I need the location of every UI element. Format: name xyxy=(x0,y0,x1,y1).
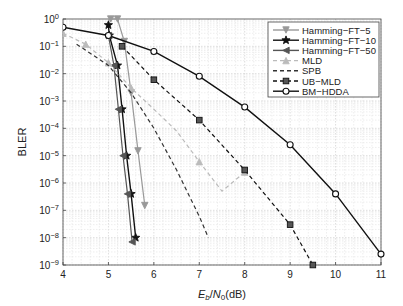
x-tick-label: 11 xyxy=(376,269,387,280)
x-axis-label: Eb/N0(dB) xyxy=(198,288,246,302)
y-tick-label: 10−9 xyxy=(39,258,59,271)
x-tick-label: 4 xyxy=(60,269,66,280)
x-tick-label: 6 xyxy=(151,269,157,280)
y-tick-label: 10−4 xyxy=(39,121,59,134)
circle-marker xyxy=(151,48,157,54)
y-tick-label: 10−3 xyxy=(39,94,59,107)
square-marker xyxy=(287,222,293,228)
circle-marker xyxy=(242,104,248,110)
circle-marker xyxy=(333,191,339,197)
y-tick-label: 10−7 xyxy=(39,203,59,216)
square-marker xyxy=(196,117,202,123)
circle-marker xyxy=(196,73,202,79)
x-tick-label: 10 xyxy=(330,269,342,280)
circle-marker xyxy=(105,32,111,38)
x-tick-label: 5 xyxy=(106,269,112,280)
legend: Hamming−FT−5Hamming−FT−10Hamming−FT−50ML… xyxy=(268,22,379,97)
y-axis-label: BLER xyxy=(16,128,28,157)
circle-marker xyxy=(287,142,293,148)
square-marker xyxy=(119,44,125,50)
square-marker xyxy=(310,262,316,268)
legend-label: BM−HDDA xyxy=(302,86,349,97)
bler-chart: 456789101110010−110−210−310−410−510−610−… xyxy=(0,0,403,306)
y-tick-label: 10−2 xyxy=(39,67,59,80)
square-marker xyxy=(283,78,289,84)
circle-marker xyxy=(60,24,66,30)
x-tick-label: 8 xyxy=(242,269,248,280)
x-tick-label: 7 xyxy=(197,269,203,280)
y-tick-label: 10−8 xyxy=(39,231,59,244)
y-tick-label: 10−1 xyxy=(39,39,59,52)
x-tick-label: 9 xyxy=(287,269,293,280)
y-tick-label: 100 xyxy=(44,12,59,25)
square-marker xyxy=(242,167,248,173)
y-tick-label: 10−6 xyxy=(39,176,59,189)
circle-marker xyxy=(378,251,384,257)
y-tick-label: 10−5 xyxy=(39,149,59,162)
circle-marker xyxy=(283,88,289,94)
square-marker xyxy=(151,77,157,83)
